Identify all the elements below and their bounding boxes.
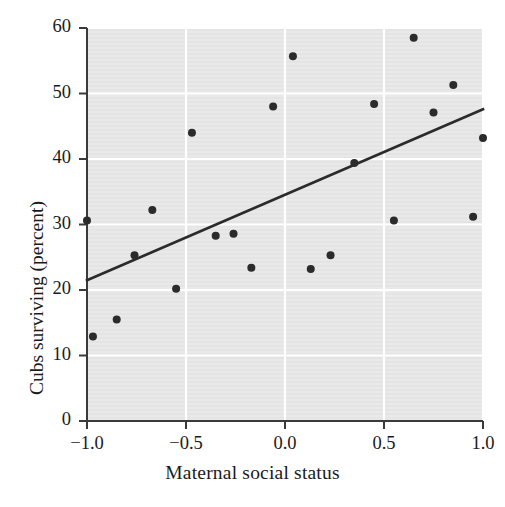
data-point	[390, 217, 398, 225]
x-tick-label: 1.0	[453, 433, 505, 454]
plot-canvas	[0, 0, 505, 507]
data-point	[350, 159, 358, 167]
data-point	[172, 285, 180, 293]
data-point	[113, 315, 121, 323]
data-point	[469, 213, 477, 221]
data-point	[83, 217, 91, 225]
data-point	[212, 232, 220, 240]
x-tick-label: 0.5	[354, 433, 414, 454]
y-tick-label: 20	[29, 278, 71, 299]
y-tick-label: 10	[29, 344, 71, 365]
x-axis-title: Maternal social status	[0, 462, 505, 484]
data-point	[89, 333, 97, 341]
data-point	[479, 134, 487, 142]
data-point	[430, 108, 438, 116]
data-point	[289, 52, 297, 60]
y-tick-label: 60	[29, 16, 71, 37]
data-point	[410, 34, 418, 42]
data-point	[148, 206, 156, 214]
data-point	[327, 251, 335, 259]
x-tick-label: 0.0	[255, 433, 315, 454]
y-tick-label: 30	[29, 213, 71, 234]
scatter-plot-figure: Cubs surviving (percent) Maternal social…	[0, 0, 505, 507]
data-point	[131, 251, 139, 259]
data-point	[247, 264, 255, 272]
x-tick-label: −0.5	[156, 433, 216, 454]
data-point	[269, 103, 277, 111]
data-point	[370, 100, 378, 108]
data-point	[307, 265, 315, 273]
y-tick-label: 0	[29, 409, 71, 430]
y-tick-label: 50	[29, 82, 71, 103]
data-point	[188, 129, 196, 137]
x-tick-label: −1.0	[57, 433, 117, 454]
y-tick-label: 40	[29, 147, 71, 168]
data-point	[230, 230, 238, 238]
data-point	[449, 81, 457, 89]
